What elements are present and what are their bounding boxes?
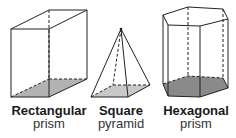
hexagonal-prism <box>163 7 228 97</box>
label-hexagonal-prism: Hexagonal prism <box>158 104 234 130</box>
square-pyramid <box>91 28 150 97</box>
label-sub: prism <box>0 117 98 130</box>
pyramid-base <box>91 85 150 97</box>
label-rectangular-prism: Rectangular prism <box>0 104 98 130</box>
pyramid-apex <box>120 28 123 31</box>
hex-prism-base <box>163 76 228 97</box>
label-sub: prism <box>158 117 234 130</box>
label-sub: pyramid <box>90 117 152 130</box>
label-square-pyramid: Square pyramid <box>90 104 152 130</box>
rectangular-prism <box>11 10 87 97</box>
